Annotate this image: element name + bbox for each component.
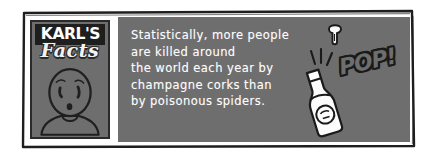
brand-name-bottom: Facts xyxy=(32,41,108,60)
flying-cork-icon xyxy=(329,25,341,44)
fact-line: by poisonous spiders. xyxy=(131,93,289,110)
brand-logo-panel: KARL'S Facts xyxy=(27,17,114,142)
illustration-area: POP! xyxy=(289,17,410,142)
fact-content: Statistically, more people are killed ar… xyxy=(118,17,410,142)
karls-facts-card: KARL'S Facts xyxy=(0,0,437,159)
fact-line: are killed around xyxy=(131,44,289,61)
fact-text-block: Statistically, more people are killed ar… xyxy=(118,17,289,142)
brand-logo-inner: KARL'S Facts xyxy=(30,20,110,139)
fact-panel: KARL'S Facts xyxy=(27,17,410,142)
worried-face-icon xyxy=(32,65,108,137)
fact-line: champagne corks than xyxy=(131,77,289,94)
burst-lines-icon xyxy=(311,49,332,65)
champagne-bottle-icon xyxy=(289,17,410,142)
bottle-shape xyxy=(300,68,343,137)
fact-line: Statistically, more people xyxy=(131,27,289,44)
fact-line: the world each year by xyxy=(131,60,289,77)
